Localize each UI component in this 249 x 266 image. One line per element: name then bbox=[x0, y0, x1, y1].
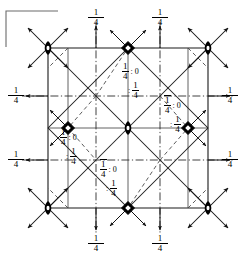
frac-denominator: 4 bbox=[174, 124, 181, 134]
lens-top-right bbox=[205, 41, 212, 55]
site-label-row-bottom: : 1 4 bbox=[60, 147, 77, 166]
diagram-svg bbox=[0, 0, 249, 266]
site-frac-right: 1 4 bbox=[110, 179, 117, 198]
site-label-row-bottom: : 1 4 bbox=[122, 81, 139, 100]
edge-label-right-lower-quarter: 1 4 bbox=[222, 150, 238, 169]
frac-denominator: 4 bbox=[8, 95, 24, 105]
frac-denominator: 4 bbox=[110, 188, 117, 198]
site-label-row-top: 1 4 : 0 bbox=[122, 62, 139, 81]
site-frac-right: 1 4 bbox=[174, 115, 181, 134]
frac-numerator-overbar: 1 bbox=[164, 96, 171, 105]
frac-numerator: 1 bbox=[88, 8, 104, 17]
frac-denominator: 4 bbox=[8, 159, 24, 169]
edge-label-right-upper-quarter: 1 4 bbox=[222, 86, 238, 105]
frac-denominator: 4 bbox=[88, 17, 104, 27]
edge-label-left-upper-quarter: 1 4 bbox=[8, 86, 24, 105]
frac-numerator: 1 bbox=[222, 86, 238, 95]
site-label-row-bottom: : 1 4 bbox=[164, 115, 181, 134]
site-label-value-zero: 0 bbox=[135, 68, 139, 76]
site-label-left-centre: 1 4 : 0 : 1 4 bbox=[60, 128, 77, 166]
frac-numerator: 1 bbox=[174, 115, 181, 124]
edge-label-bottom-left-quarter: 1 4 bbox=[88, 234, 104, 253]
frac-numerator: 1 bbox=[8, 150, 24, 159]
lens-bottom-left bbox=[45, 201, 52, 215]
frac-numerator: 1 bbox=[88, 234, 104, 243]
site-label-value-zero: 0 bbox=[113, 166, 117, 174]
site-label-row-bottom: : 1 4 bbox=[100, 179, 117, 198]
edge-label-left-lower-quarter: 1 4 bbox=[8, 150, 24, 169]
edge-label-bottom-right-quarter: 1 4 bbox=[152, 234, 168, 253]
site-label-upper-centre: 1 4 : 0 : 1 4 bbox=[122, 62, 139, 100]
site-label-row-top: 1 4 : 0 bbox=[100, 160, 117, 179]
frac-numerator: 1 bbox=[70, 147, 77, 156]
symmetry-diagram-canvas: 1 4 1 4 1 4 1 4 1 4 1 4 1 4 1 4 1 4 : 0 bbox=[0, 0, 249, 266]
edge-label-top-left-quarter: 1 4 bbox=[88, 8, 104, 27]
site-label-value-zero: 0 bbox=[177, 102, 181, 110]
frac-numerator: 1 bbox=[152, 8, 168, 17]
lens-top-left bbox=[45, 41, 52, 55]
frac-denominator: 4 bbox=[222, 95, 238, 105]
site-label-value-zero: 0 bbox=[73, 134, 77, 142]
site-frac-right: 1 4 bbox=[132, 81, 139, 100]
frac-numerator: 1 bbox=[132, 81, 139, 90]
frac-denominator: 4 bbox=[152, 243, 168, 253]
site-label-row-top: 1 4 : 0 bbox=[60, 128, 77, 147]
lens-centre bbox=[125, 121, 132, 135]
frac-denominator: 4 bbox=[88, 243, 104, 253]
site-frac-right: 1 4 bbox=[70, 147, 77, 166]
site-label-row-top: 1 4 : 0 bbox=[164, 96, 181, 115]
origin-corner-bracket bbox=[6, 11, 58, 47]
frac-numerator-overbar: 1 bbox=[100, 160, 107, 169]
frac-denominator: 4 bbox=[222, 159, 238, 169]
frac-numerator: 1 bbox=[222, 150, 238, 159]
frac-numerator: 1 bbox=[110, 179, 117, 188]
frac-denominator: 4 bbox=[132, 90, 139, 100]
site-label-right-centre: 1 4 : 0 : 1 4 bbox=[164, 96, 181, 134]
frac-denominator: 4 bbox=[152, 17, 168, 27]
frac-numerator: 1 bbox=[152, 234, 168, 243]
frac-numerator: 1 bbox=[8, 86, 24, 95]
frac-denominator: 4 bbox=[70, 156, 77, 166]
site-label-lower-centre: 1 4 : 0 : 1 4 bbox=[100, 160, 117, 198]
edge-label-top-right-quarter: 1 4 bbox=[152, 8, 168, 27]
lens-bottom-right bbox=[205, 201, 212, 215]
